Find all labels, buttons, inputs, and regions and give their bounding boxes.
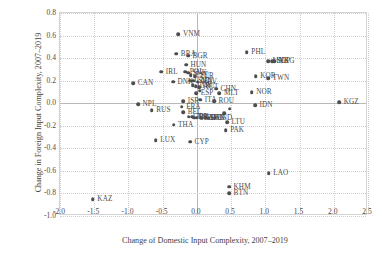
data-point-label: PHL	[251, 48, 265, 56]
data-point	[245, 51, 249, 55]
data-point	[250, 90, 254, 94]
y-gridline	[60, 13, 366, 14]
data-point	[212, 99, 216, 103]
data-point	[254, 74, 258, 78]
x-gridline	[334, 13, 335, 214]
data-point-label: BTN	[234, 189, 249, 197]
data-point	[160, 70, 164, 74]
y-tick-label: -0.4	[44, 143, 56, 152]
y-axis-label: Change in Foreign Input Complexity, 2007…	[34, 13, 43, 213]
data-point	[228, 107, 232, 111]
data-point	[172, 123, 176, 127]
x-gridline	[128, 13, 129, 214]
data-point	[199, 116, 203, 120]
data-point	[213, 116, 217, 120]
x-tick-label: 1.5	[294, 207, 304, 216]
data-point	[267, 171, 271, 175]
data-point	[195, 116, 199, 120]
data-point	[266, 60, 270, 64]
data-point	[207, 116, 211, 120]
data-point	[186, 54, 190, 58]
data-point	[227, 185, 231, 189]
data-point	[150, 108, 154, 112]
y-tick-label: -1.0	[44, 211, 56, 220]
y-tick-label: 0.2	[47, 75, 57, 84]
y-gridline	[60, 216, 366, 217]
data-point	[131, 81, 135, 85]
x-gridline	[94, 13, 95, 214]
data-point	[154, 139, 158, 143]
data-point-label: RUS	[156, 106, 170, 114]
data-point	[253, 104, 257, 108]
data-point	[227, 192, 231, 196]
y-gridline	[60, 171, 366, 172]
plot-area: VNMBRABGRPHLHUNMYSSGPHKGIRLPOLSVKESTTURK…	[59, 12, 367, 215]
data-point-label: CYP	[195, 138, 209, 146]
data-point	[199, 98, 203, 102]
data-point	[224, 128, 228, 132]
data-point	[171, 80, 175, 84]
x-tick-label: 0.0	[191, 207, 201, 216]
data-point-label: IRL	[166, 68, 178, 76]
data-point	[136, 103, 140, 107]
data-point-label: HKG	[279, 57, 295, 65]
data-point	[266, 77, 270, 81]
data-point	[91, 197, 95, 201]
data-point-label: LTU	[232, 118, 246, 126]
x-tick-label: -1.5	[87, 207, 99, 216]
data-point-label: THA	[178, 121, 193, 129]
x-tick-label: 1.0	[260, 207, 270, 216]
data-point-label: LUX	[160, 136, 175, 144]
data-point-label: KAZ	[97, 195, 112, 203]
data-point-label: LAO	[273, 169, 288, 177]
y-tick-label: 0.0	[47, 98, 57, 107]
x-axis-label: Change of Domestic Input Complexity, 200…	[40, 236, 370, 245]
y-gridline	[60, 148, 366, 149]
data-point-label: CAN	[138, 79, 153, 87]
y-tick-label: -0.2	[44, 120, 56, 129]
data-point	[188, 140, 192, 144]
data-point	[337, 100, 341, 104]
x-tick-label: 2.5	[362, 207, 372, 216]
data-point	[189, 73, 193, 77]
data-point	[194, 91, 198, 95]
y-gridline	[60, 58, 366, 59]
y-gridline	[60, 36, 366, 37]
data-point-label: IDN	[260, 101, 273, 109]
scatter-chart-figure: Change in Foreign Input Complexity, 2007…	[0, 0, 382, 257]
data-point-label: VNM	[183, 30, 200, 38]
data-point-label: ROU	[219, 97, 234, 105]
y-gridline	[60, 126, 366, 127]
data-point-label: MLT	[224, 89, 239, 97]
data-point	[181, 110, 185, 114]
data-point	[184, 63, 188, 67]
x-gridline	[60, 13, 61, 214]
x-gridline	[368, 13, 369, 214]
x-gridline	[300, 13, 301, 214]
data-point	[218, 91, 222, 95]
x-tick-label: 0.5	[225, 207, 235, 216]
data-point	[175, 52, 179, 56]
data-point	[225, 121, 229, 125]
data-point-label: KGZ	[344, 98, 359, 106]
x-tick-label: -1.0	[121, 207, 133, 216]
data-point	[181, 99, 185, 103]
data-point-label: PAK	[230, 126, 244, 134]
data-point-label: NOR	[256, 88, 271, 96]
y-tick-label: 0.4	[47, 53, 57, 62]
x-gridline	[265, 13, 266, 214]
data-point-label: TWN	[273, 74, 290, 82]
y-tick-label: 0.8	[47, 8, 57, 17]
y-tick-label: -0.6	[44, 165, 56, 174]
x-tick-label: 2.0	[328, 207, 338, 216]
data-point	[214, 87, 218, 91]
x-tick-label: -0.5	[156, 207, 168, 216]
data-point-label: BGR	[192, 52, 207, 60]
data-point	[177, 33, 181, 37]
y-tick-label: 0.6	[47, 30, 57, 39]
y-tick-label: -0.8	[44, 188, 56, 197]
data-point	[180, 105, 184, 109]
data-point	[272, 60, 276, 64]
data-point	[192, 79, 196, 83]
data-point-label: NPL	[143, 100, 157, 108]
